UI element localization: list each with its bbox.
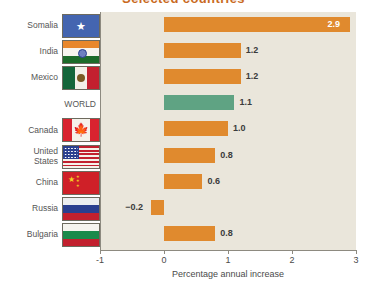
bar-value-label: 0.6 xyxy=(207,174,220,189)
category-label: Somalia xyxy=(27,21,62,31)
bar-value-label: 0.8 xyxy=(220,226,233,241)
russia-flag xyxy=(62,197,100,221)
category-label: Mexico xyxy=(31,73,62,83)
mexico-flag xyxy=(62,66,100,90)
category-row-china: China★★★★ xyxy=(0,170,100,196)
zero-axis-line xyxy=(100,12,101,250)
category-label: Russia xyxy=(32,204,62,214)
bar-value-label: 1.2 xyxy=(246,43,259,58)
x-tick-1 xyxy=(164,250,165,254)
category-label: United States xyxy=(33,147,62,166)
category-row-canada: Canada🍁 xyxy=(0,117,100,143)
category-label: WORLD xyxy=(64,100,100,110)
somalia-flag: ★ xyxy=(62,14,100,38)
usa-flag xyxy=(62,145,100,169)
bar-united-states xyxy=(164,148,215,163)
bulgaria-flag xyxy=(62,223,100,247)
category-row-india: India xyxy=(0,39,100,65)
category-label: India xyxy=(40,47,62,57)
x-tick-label-0: -1 xyxy=(96,255,104,265)
category-row-bulgaria: Bulgaria xyxy=(0,222,100,248)
category-row-mexico: Mexico xyxy=(0,65,100,91)
category-row-russia: Russia xyxy=(0,196,100,222)
chart-container: Selected countries Somalia★IndiaMexicoWO… xyxy=(0,0,367,284)
x-tick-label-3: 2 xyxy=(289,255,294,265)
india-flag xyxy=(62,40,100,64)
plot-area: 2.91.21.21.11.00.80.6−0.20.8 xyxy=(100,12,356,250)
category-label: China xyxy=(36,178,62,188)
x-axis-title: Percentage annual increase xyxy=(100,269,356,279)
bar-value-label: −0.2 xyxy=(125,200,143,215)
category-label: Canada xyxy=(28,126,62,136)
category-row-world: WORLD xyxy=(0,91,100,117)
bar-somalia xyxy=(164,17,350,32)
canada-flag: 🍁 xyxy=(62,118,100,142)
x-tick-4 xyxy=(356,250,357,254)
china-flag: ★★★★ xyxy=(62,171,100,195)
category-row-united-states: United States xyxy=(0,144,100,170)
chart-title: Selected countries xyxy=(0,0,367,3)
bar-value-label: 2.9 xyxy=(328,17,341,32)
bar-canada xyxy=(164,121,228,136)
bar-bulgaria xyxy=(164,226,215,241)
bar-world xyxy=(164,95,234,110)
bar-value-label: 1.0 xyxy=(233,121,246,136)
category-label-column: Somalia★IndiaMexicoWORLDCanada🍁United St… xyxy=(0,12,100,250)
x-tick-2 xyxy=(228,250,229,254)
bar-value-label: 1.2 xyxy=(246,69,259,84)
x-tick-label-4: 3 xyxy=(353,255,358,265)
bar-value-label: 0.8 xyxy=(220,148,233,163)
category-label: Bulgaria xyxy=(27,230,62,240)
x-tick-label-1: 0 xyxy=(161,255,166,265)
x-tick-0 xyxy=(100,250,101,254)
x-tick-3 xyxy=(292,250,293,254)
x-tick-label-2: 1 xyxy=(225,255,230,265)
bar-mexico xyxy=(164,69,241,84)
bar-value-label: 1.1 xyxy=(239,95,252,110)
category-row-somalia: Somalia★ xyxy=(0,13,100,39)
bar-india xyxy=(164,43,241,58)
bar-russia xyxy=(151,200,164,215)
bar-china xyxy=(164,174,202,189)
